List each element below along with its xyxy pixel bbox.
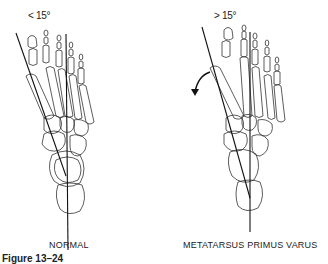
varus-first-metatarsal-axis: [202, 27, 250, 198]
normal-foot-bones: [26, 30, 94, 214]
figure-label: Figure 13–24: [2, 253, 63, 264]
normal-first-metatarsal-axis: [16, 33, 66, 176]
varus-caption: METATARSUS PRIMUS VARUS: [183, 240, 317, 250]
varus-foot-bones: [210, 25, 285, 211]
varus-angle-label: > 15°: [214, 10, 236, 21]
normal-caption: NORMAL: [49, 240, 89, 250]
normal-angle-label: < 15°: [28, 10, 50, 21]
